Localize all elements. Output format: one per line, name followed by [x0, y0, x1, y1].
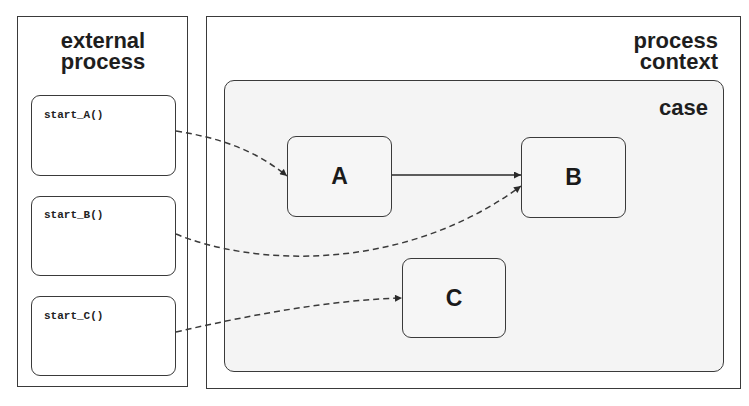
state-b[interactable]: B	[521, 137, 626, 218]
state-c[interactable]: C	[402, 258, 506, 338]
case-title: case	[640, 97, 708, 118]
process-context-title: process context	[600, 30, 718, 72]
state-a[interactable]: A	[287, 136, 392, 217]
external-process-title-line1: external	[53, 30, 153, 51]
state-a-label: A	[331, 163, 348, 190]
caller-start-c[interactable]: start_C()	[31, 296, 176, 376]
caller-start-c-label: start_C()	[44, 310, 103, 322]
process-context-title-line1: process	[600, 30, 718, 51]
external-process-title-line2: process	[53, 51, 153, 72]
caller-start-a[interactable]: start_A()	[31, 95, 176, 176]
caller-start-a-label: start_A()	[44, 109, 103, 121]
external-process-title: external process	[53, 30, 153, 72]
caller-start-b[interactable]: start_B()	[31, 196, 176, 276]
caller-start-b-label: start_B()	[44, 209, 103, 221]
state-b-label: B	[565, 164, 582, 191]
state-c-label: C	[446, 285, 463, 312]
process-context-title-line2: context	[600, 51, 718, 72]
